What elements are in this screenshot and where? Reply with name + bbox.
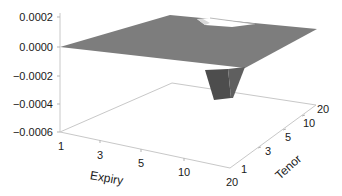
spike-left-face bbox=[205, 69, 231, 100]
y-tick-label: 20 bbox=[317, 103, 329, 115]
y-tick-label: 5 bbox=[285, 131, 291, 143]
y-tick-label: 10 bbox=[303, 117, 315, 129]
z-tick-label: −0.0004 bbox=[13, 98, 53, 110]
surface bbox=[60, 15, 317, 100]
z-tick-label: 0.0002 bbox=[19, 11, 53, 23]
surface-plane bbox=[60, 15, 317, 68]
x-tick-label: 20 bbox=[226, 176, 238, 188]
surface-chart: 0.0002 0.0000 −0.0002 −0.0004 −0.0006 1 … bbox=[0, 0, 342, 196]
x-tick-label: 3 bbox=[97, 149, 103, 161]
y-axis-title: Tenor bbox=[272, 152, 304, 182]
z-tick-label: −0.0006 bbox=[13, 126, 53, 138]
y-tick-label: 1 bbox=[241, 163, 247, 175]
x-tick-label: 1 bbox=[58, 140, 64, 152]
x-axis-title: Expiry bbox=[89, 168, 124, 188]
x-tick-label: 10 bbox=[178, 166, 190, 178]
x-tick-label: 5 bbox=[138, 157, 144, 169]
y-tick-label: 3 bbox=[265, 145, 271, 157]
floor-back-edges bbox=[60, 83, 316, 132]
z-axis-labels: 0.0002 0.0000 −0.0002 −0.0004 −0.0006 bbox=[13, 11, 53, 138]
z-tick-label: 0.0000 bbox=[19, 41, 53, 53]
z-tick-label: −0.0002 bbox=[13, 70, 53, 82]
y-axis-ticks bbox=[258, 115, 305, 148]
